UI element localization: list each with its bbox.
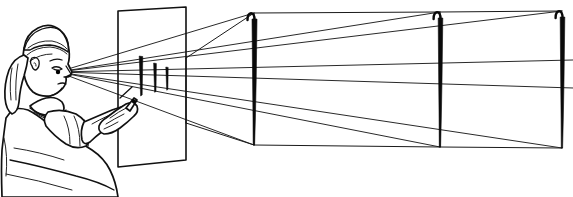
artist-eye-viewpoint: [56, 70, 60, 74]
perspective-illustration: Linear perspective construction: artist …: [0, 0, 573, 197]
figure-canvas: [0, 0, 573, 197]
